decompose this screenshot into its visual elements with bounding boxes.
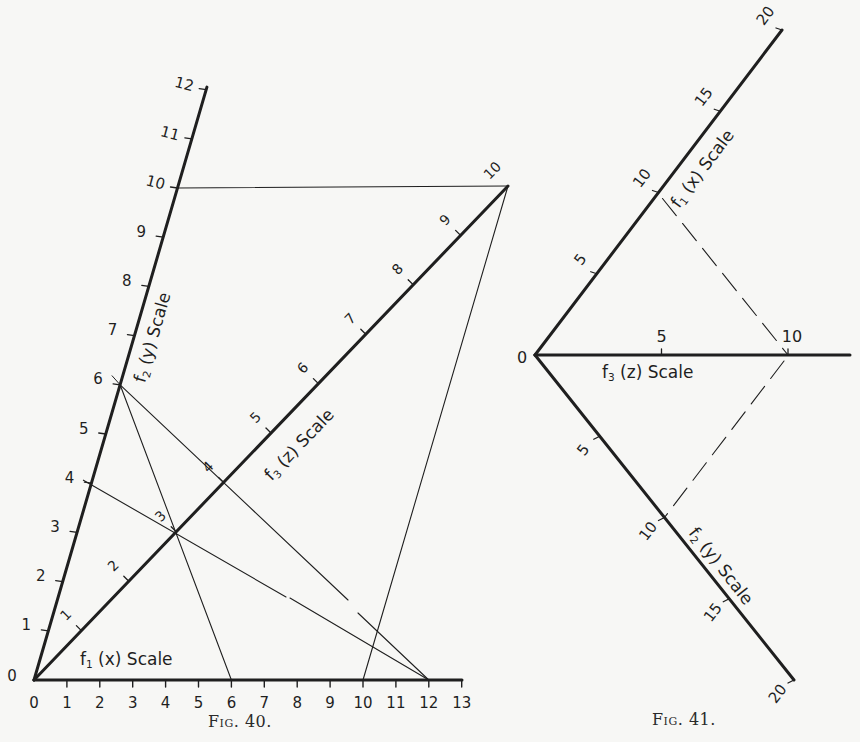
f3-tick [456,230,461,235]
f1-tick-label: 3 [128,694,138,712]
f2-tick-label: 12 [173,73,196,95]
origin-label: 0 [517,348,527,367]
f2-tick-label: 4 [65,469,75,487]
f1-tick-label: 5 [194,694,204,712]
f2-tick-label: 20 [765,681,791,707]
figure-40: 0123456789101112131234567891011121234567… [7,73,508,712]
f2-tick-label: 15 [700,599,726,625]
dashed-construction-line [665,361,785,518]
f3-tick [408,280,413,285]
f3-tick-label: 2 [104,557,122,575]
f2-tick [788,680,794,683]
f1-tick-label: 15 [691,84,717,110]
f2-tick-label: 8 [122,272,132,290]
f1-tick-label: 2 [95,694,105,712]
f1-tick-label: 0 [29,694,39,712]
f1-tick-label: 10 [629,165,655,191]
f2-tick [659,518,665,521]
f2-scale-label: f2 (y) Scale [684,523,758,609]
f3-tick-label: 10 [480,158,504,182]
f3-tick [124,576,129,581]
construction-line [178,186,509,188]
f2-tick-label: 6 [93,370,103,388]
f1-tick-label: 13 [452,694,471,712]
f3-tick-label: 6 [294,359,312,377]
f1-tick-label: 8 [292,694,302,712]
figure-41: 510510152051015200f3 (z) Scalef1 (x) Sca… [517,3,850,707]
f2-tick-label: 11 [158,122,181,144]
f3-tick [219,477,224,482]
f2-tick-label: 10 [635,518,661,544]
f1-tick-label: 10 [353,694,372,712]
nomogram-diagram: 0123456789101112131234567891011121234567… [0,0,860,742]
f2-tick-label: 1 [22,616,32,634]
f3-scale-label: f3 (z) Scale [260,404,339,485]
f2-tick-label: 2 [36,567,46,585]
f2-tick-label: 9 [136,223,146,241]
f1-tick-label: 6 [227,694,237,712]
f2-tick-label: 3 [50,518,60,536]
f2-tick [594,436,600,439]
f3-tick-label: 1 [57,606,75,624]
origin-label: 0 [7,667,17,685]
f3-tick-label: 9 [436,211,454,229]
construction-line [83,480,286,597]
dashed-construction-line [663,199,789,356]
f2-tick-label: 10 [144,171,167,193]
f3-tick [313,379,318,384]
f3-tick-label: 10 [782,327,802,346]
f2-tick [723,599,729,602]
f1-tick-label: 12 [419,694,438,712]
f1-tick-label: 20 [753,3,779,29]
f1-scale-label: f1 (x) Scale [80,649,173,670]
construction-line [358,613,429,680]
f1-tick-label: 9 [325,694,335,712]
f2-tick-label: 5 [573,441,593,460]
figure-41-caption: Fig. 41. [652,710,716,729]
f3-tick-label: 7 [341,310,359,328]
f3-tick-label: 5 [246,408,264,426]
figure-40-caption: Fig. 40. [208,712,272,731]
f1-tick-label: 7 [260,694,270,712]
construction-line [290,598,429,680]
f3-tick [76,626,81,631]
f2-tick-label: 5 [79,420,89,438]
f1-tick-label: 1 [62,694,72,712]
f1-tick-label: 4 [161,694,171,712]
f3-tick-label: 3 [152,507,170,525]
f3-tick-label: 5 [656,327,666,346]
f2-scale-label: f2 (y) Scale [129,290,175,385]
f3-tick [361,329,366,334]
f2-tick-label: 7 [108,321,118,339]
f1-tick-label: 11 [386,694,405,712]
f3-scale-label: f3 (z) Scale [602,362,693,383]
f3-tick-label: 8 [389,260,407,278]
f3-tick [266,428,271,433]
f1-tick-label: 5 [570,250,590,268]
